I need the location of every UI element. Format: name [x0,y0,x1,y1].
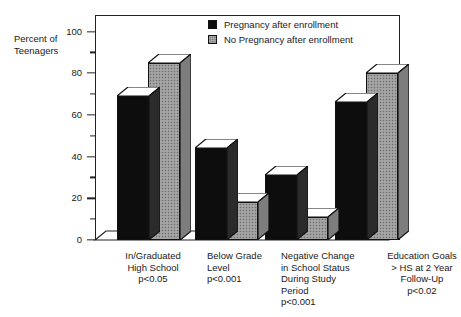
y-tick-label: 100 [56,27,82,37]
y-tick-mark [87,114,95,115]
legend-label: No Pregnancy after enrollment [224,35,353,45]
bar-front-face [195,148,227,240]
y-tick-label: 40 [56,152,82,162]
bar-side-face [367,93,378,240]
bar-pregnancy-group-4 [335,102,367,240]
bars-layer [95,15,400,240]
legend-item-pregnancy: Pregnancy after enrollment [208,18,398,31]
x-group-label-4: Education Goals > HS at 2 Year Follow-Up… [367,250,461,296]
y-tick-label: 20 [56,194,82,204]
bar-front-face [265,175,297,240]
bar-side-face [149,87,160,240]
bar-side-face [297,166,308,240]
x-group-label-1: In/Graduated High School p<0.05 [101,250,205,285]
bar-side-face [180,54,191,240]
bar-front-face [335,102,367,240]
legend-swatch-no-pregnancy-icon [208,35,217,44]
legend-label: Pregnancy after enrollment [224,20,338,30]
bar-pregnancy-group-1 [117,96,149,240]
bar-side-face [328,208,339,240]
y-tick-label: 60 [56,110,82,120]
bar-side-face [398,64,409,240]
y-tick-mark [87,73,95,74]
bar-side-face [258,193,269,240]
legend-swatch-pregnancy-icon [208,20,217,29]
bar-front-face [117,96,149,240]
bar-side-face [227,139,238,240]
legend: Pregnancy after enrollmentNo Pregnancy a… [208,18,398,48]
bar-pregnancy-group-3 [265,175,297,240]
y-tick-mark [87,198,95,199]
y-tick-label: 0 [56,235,82,245]
bar-pregnancy-group-2 [195,148,227,240]
y-tick-label: 80 [56,68,82,78]
y-tick-mark [87,156,95,157]
x-axis-group-labels: In/Graduated High School p<0.05Below Gra… [95,250,405,314]
legend-item-no-pregnancy: No Pregnancy after enrollment [208,33,398,46]
y-tick-mark [87,31,95,32]
